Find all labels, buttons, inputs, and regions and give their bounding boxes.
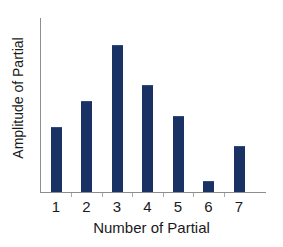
x-axis-label: Number of Partial (0, 219, 283, 237)
bar-partial-5 (173, 116, 184, 192)
x-axis-minor-tick (163, 193, 164, 197)
y-axis-label: Amplitude of Partial (0, 0, 36, 196)
x-tick-label-4: 4 (136, 198, 160, 216)
x-axis-minor-tick (71, 193, 72, 197)
x-axis-line (40, 192, 266, 193)
bar-partial-1 (51, 127, 62, 192)
bar-chart-figure: Amplitude of Partial 1234567 Number of P… (0, 0, 283, 247)
y-axis-label-text: Amplitude of Partial (11, 37, 25, 158)
bar-partial-6 (203, 181, 214, 192)
x-tick-label-7: 7 (227, 198, 251, 216)
x-tick-label-5: 5 (166, 198, 190, 216)
x-axis-minor-tick (193, 193, 194, 197)
x-tick-label-6: 6 (197, 198, 221, 216)
x-tick-label-2: 2 (75, 198, 99, 216)
bar-partial-3 (112, 45, 123, 192)
bar-partial-7 (234, 146, 245, 192)
x-axis-minor-tick (224, 193, 225, 197)
bar-partial-4 (142, 85, 153, 192)
x-tick-label-3: 3 (105, 198, 129, 216)
plot-area (40, 18, 265, 192)
x-tick-label-1: 1 (44, 198, 68, 216)
bar-partial-2 (81, 101, 92, 192)
x-axis-minor-tick (102, 193, 103, 197)
x-axis-minor-tick (132, 193, 133, 197)
